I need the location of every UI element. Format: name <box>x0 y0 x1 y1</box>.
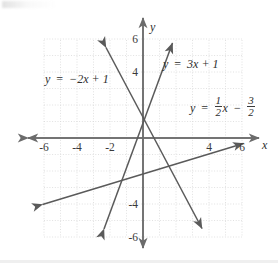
graph-figure: y x -6 -4 -2 4 6 6 4 -4 -6 y = −2x + 1 y… <box>0 0 278 263</box>
y-tick-label-minus-4: -4 <box>120 199 138 211</box>
eq3-minus: − <box>234 101 241 115</box>
coordinate-plane <box>0 0 278 263</box>
eq3-frac2-denominator: 2 <box>247 107 255 119</box>
equation-label-half-x-minus-three-halves: y = 1 2 x − 3 2 <box>190 95 255 119</box>
x-tick-label-4: 4 <box>203 142 215 154</box>
x-tick-label-minus-6: -6 <box>36 142 52 154</box>
y-tick-label-4: 4 <box>126 67 138 79</box>
eq2-rhs: 3x + 1 <box>187 57 218 71</box>
x-tick-label-6: 6 <box>236 142 248 154</box>
eq2-y: y <box>163 57 168 71</box>
equation-label-negative-two-x-plus-one: y = −2x + 1 <box>45 73 109 85</box>
x-tick-label-minus-2: -2 <box>102 142 118 154</box>
equation-label-three-x-plus-one: y = 3x + 1 <box>163 58 219 70</box>
x-tick-label-minus-4: -4 <box>69 142 85 154</box>
eq1-rhs: −2x + 1 <box>69 72 109 86</box>
y-axis-label: y <box>150 21 155 33</box>
y-tick-label-6: 6 <box>126 34 138 46</box>
eq3-frac1-denominator: 2 <box>215 107 223 119</box>
y-tick-label-minus-6: -6 <box>120 232 138 244</box>
eq3-fraction-one-half: 1 2 <box>215 95 223 119</box>
eq1-y: y <box>45 72 50 86</box>
x-axis-label: x <box>262 139 267 151</box>
eq3-variable: x <box>223 101 228 115</box>
eq3-fraction-three-halves: 3 2 <box>247 95 255 119</box>
eq3-y: y <box>190 101 195 115</box>
